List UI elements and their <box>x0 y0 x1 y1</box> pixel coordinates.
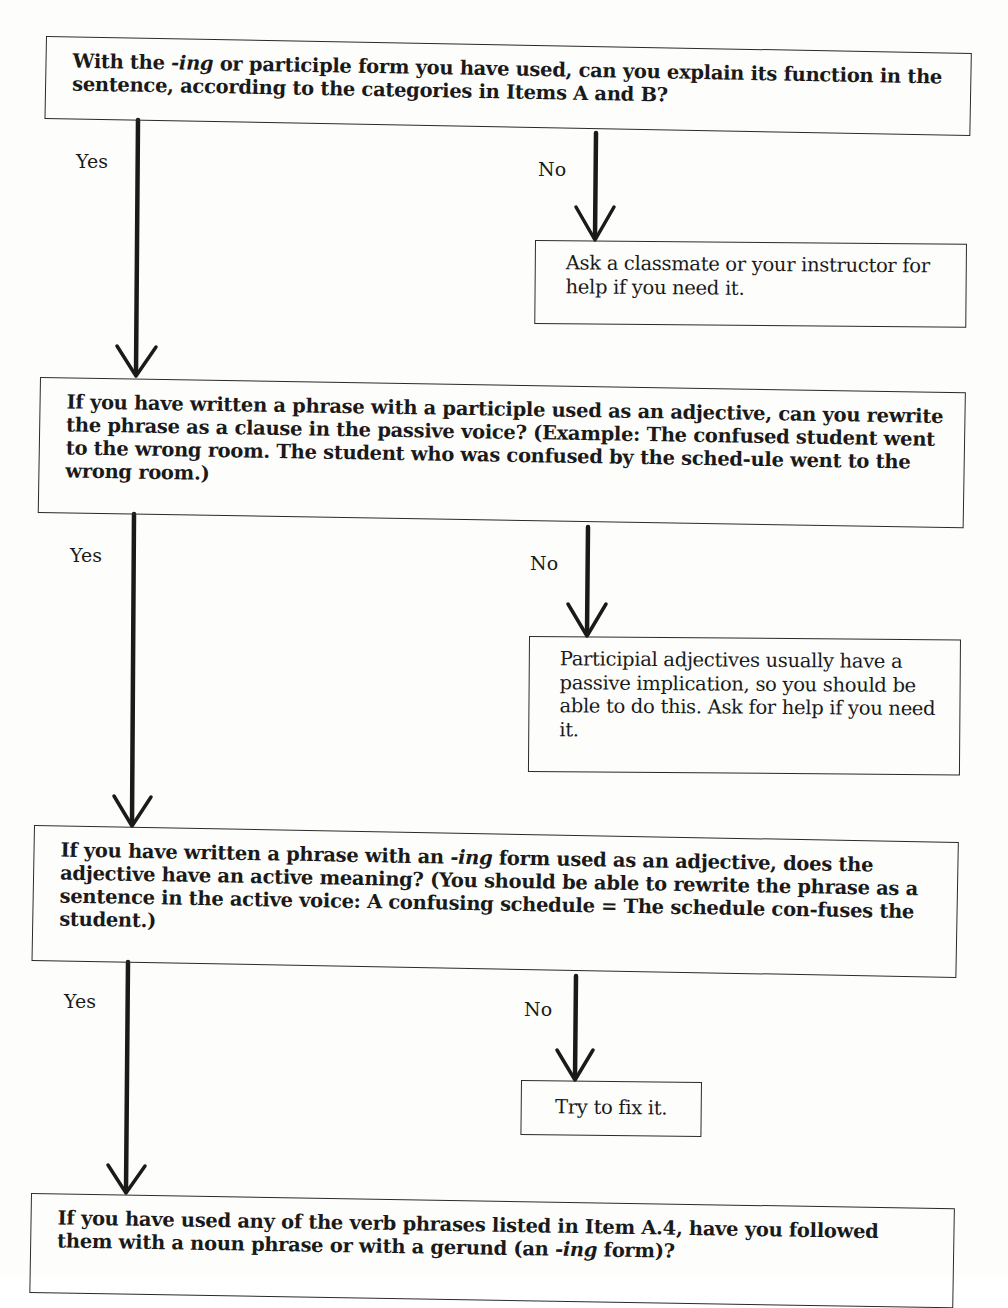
question-text: With the <box>72 49 171 74</box>
branch-label-no: No <box>524 998 552 1020</box>
branch-label-yes: Yes <box>76 150 108 172</box>
branch-label-no: No <box>538 158 566 180</box>
question-text: If you have written a phrase with a part… <box>65 390 943 484</box>
question-italic-term: -ing <box>555 1238 598 1262</box>
branch-label-no: No <box>530 552 558 574</box>
arrow-down-icon <box>576 133 614 240</box>
arrow-down-icon <box>108 962 145 1193</box>
branch-label-yes: Yes <box>70 544 102 566</box>
question-italic-term: -ing <box>171 51 214 75</box>
answer-box-3: Try to fix it. <box>520 1080 702 1137</box>
branch-label-yes: Yes <box>64 990 96 1012</box>
arrow-down-icon <box>568 527 606 636</box>
question-box-4: If you have used any of the verb phrases… <box>29 1193 955 1308</box>
arrow-down-icon <box>557 976 593 1080</box>
answer-box-2: Participial adjectives usually have a pa… <box>528 636 961 775</box>
answer-text: Participial adjectives usually have a pa… <box>559 647 935 741</box>
question-box-2: If you have written a phrase with a part… <box>38 377 966 528</box>
question-text: If you have used any of the verb phrases… <box>57 1206 879 1260</box>
answer-text: Try to fix it. <box>555 1095 667 1119</box>
answer-box-1: Ask a classmate or your instructor for h… <box>534 240 967 328</box>
question-italic-term: -ing <box>450 846 493 870</box>
arrow-down-icon <box>114 514 151 826</box>
answer-text: Ask a classmate or your instructor for h… <box>565 251 929 299</box>
arrow-down-icon <box>117 120 156 376</box>
question-box-1: With the -ing or participle form you hav… <box>44 36 971 136</box>
question-text: form)? <box>597 1238 675 1262</box>
question-box-3: If you have written a phrase with an -in… <box>32 825 959 978</box>
